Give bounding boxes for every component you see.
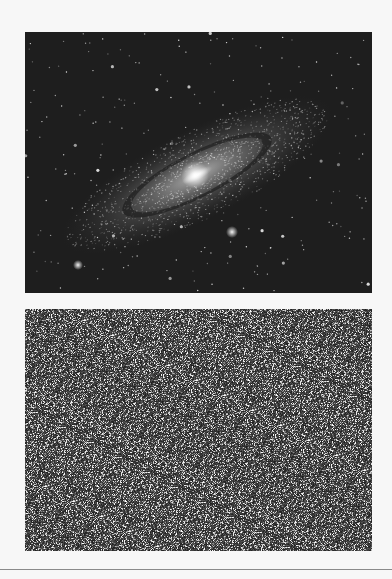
noise-canvas (25, 309, 372, 551)
divider-line (0, 569, 392, 570)
galaxy-image (25, 32, 372, 293)
noise-image (25, 309, 372, 551)
galaxy-canvas (25, 32, 372, 293)
